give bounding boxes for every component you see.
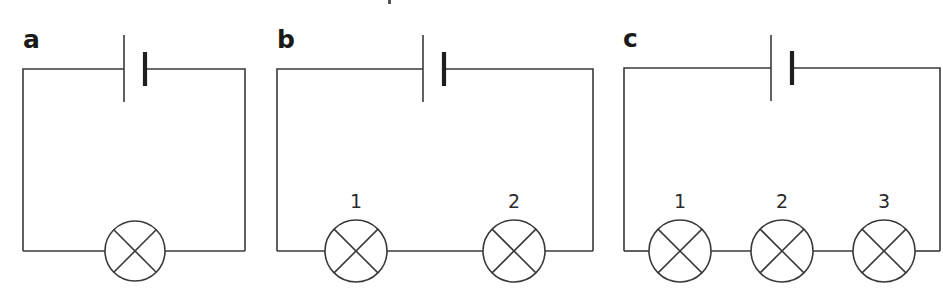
lamp-number-label: 3	[878, 190, 890, 212]
lamp-icon	[325, 220, 387, 282]
lamp-number-label: 1	[674, 190, 686, 212]
circuit-panel-a: a	[23, 25, 245, 281]
wire-top-left	[624, 68, 771, 251]
lamp-icon	[483, 220, 545, 282]
panel-label-a: a	[23, 25, 40, 54]
lamp-icon	[649, 220, 711, 282]
lamp-number-label: 2	[776, 190, 788, 212]
cropped-glyph-fragment	[388, 0, 391, 4]
circuit-panel-c: c123	[623, 24, 940, 282]
lamp-icon	[105, 221, 165, 281]
wire-top-right	[792, 68, 940, 251]
wire-top-right	[145, 69, 245, 251]
battery-cell-icon	[423, 35, 444, 102]
panel-label-c: c	[623, 24, 638, 53]
circuit-panel-b: b12	[277, 25, 593, 282]
circuit-diagram: a b12 c123	[0, 0, 943, 295]
lamp-number-label: 2	[508, 190, 520, 212]
lamp-icon	[853, 220, 915, 282]
battery-cell-icon	[771, 35, 792, 101]
panel-label-b: b	[277, 25, 295, 54]
lamp-number-label: 1	[350, 190, 362, 212]
wire-top-left	[23, 69, 124, 251]
battery-cell-icon	[124, 35, 145, 102]
lamp-icon	[751, 220, 813, 282]
